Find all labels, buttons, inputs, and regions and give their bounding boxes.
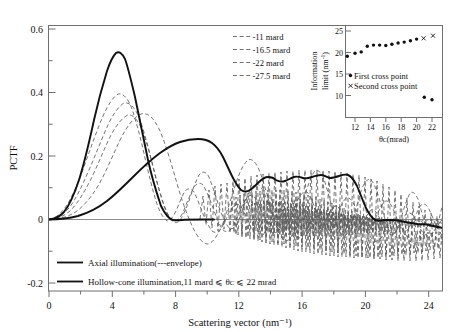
y-tick-label-0.4: 0.4	[31, 87, 44, 98]
inset-data-point	[403, 40, 406, 43]
inset-legend-label-first: First cross point	[354, 72, 409, 81]
inset-data-point	[430, 98, 433, 101]
y-axis-title: PCTF	[8, 145, 19, 170]
inset-y-tick-10: 10	[335, 92, 343, 101]
inset-x-tick-16: 16	[382, 123, 390, 132]
x-tick-label-20: 20	[360, 300, 370, 311]
inset-x-tick-18: 18	[397, 123, 405, 132]
inset-y-axis-title-line1: Information	[310, 51, 319, 90]
inset-y-tick-20: 20	[335, 49, 343, 58]
x-tick-label-0: 0	[47, 300, 52, 311]
legend-label-hollowcone: Hollow-cone illumination,11 mard ⩽ θᴄ ⩽ …	[88, 277, 277, 287]
inset-data-point	[390, 43, 393, 46]
chart-figure: 0.6 0.4 0.2 0 -0.2 PCTF 0 4 8 12 16 20 2…	[0, 0, 454, 332]
inset-x-tick-14: 14	[366, 123, 374, 132]
inset-data-point	[415, 37, 418, 40]
x-tick-label-8: 8	[173, 300, 178, 311]
inset-data-point	[396, 41, 399, 44]
inset-data-point	[346, 55, 349, 58]
inset-x-tick-20: 20	[413, 123, 421, 132]
legend-label-27.5mard: -27.5 mard	[253, 71, 291, 81]
inset-y-axis-title-line2-main: limit (nm	[321, 59, 330, 90]
legend-label-16.5mard: -16.5 mard	[253, 45, 291, 55]
inset-y-tick-15: 15	[335, 70, 343, 79]
inset-x-tick-12: 12	[351, 123, 359, 132]
x-axis-title: Scattering vector (nm⁻¹)	[188, 317, 292, 329]
y-tick-label-0.6: 0.6	[31, 24, 44, 35]
y-tick-label--0.2: -0.2	[27, 278, 43, 289]
inset-data-point	[360, 50, 363, 53]
legend-label-22mard: -22 mard	[253, 58, 285, 68]
x-tick-label-4: 4	[110, 300, 115, 311]
inset-legend-label-second: Second cross point	[354, 82, 418, 91]
inset-data-point	[384, 44, 387, 47]
inset-legend: First cross point Second cross point	[349, 72, 418, 91]
inset-data-point	[423, 96, 426, 99]
pctf-chart: 0.6 0.4 0.2 0 -0.2 PCTF 0 4 8 12 16 20 2…	[0, 0, 454, 332]
x-tick-label-16: 16	[297, 300, 307, 311]
inset-x-axis-title: θᴄ(mrad)	[379, 135, 409, 144]
inset-data-point	[366, 45, 369, 48]
inset-data-point	[372, 43, 375, 46]
x-tick-label-12: 12	[234, 300, 244, 311]
y-tick-label-0: 0	[38, 214, 43, 225]
inset-y-tick-25: 25	[335, 27, 343, 36]
legend-label-11mard: -11 mard	[253, 32, 285, 42]
x-tick-label-24: 24	[424, 300, 434, 311]
inset-y-axis-title-close: )	[321, 52, 330, 55]
y-tick-label-0.2: 0.2	[31, 151, 44, 162]
inset-legend-marker-dot	[349, 74, 352, 77]
inset-x-tick-22: 22	[428, 123, 436, 132]
inset-data-point	[409, 39, 412, 42]
legend-label-axial: Axial illumination(---envelope)	[88, 258, 202, 268]
inset-data-point	[378, 43, 381, 46]
inset-data-point	[353, 52, 356, 55]
